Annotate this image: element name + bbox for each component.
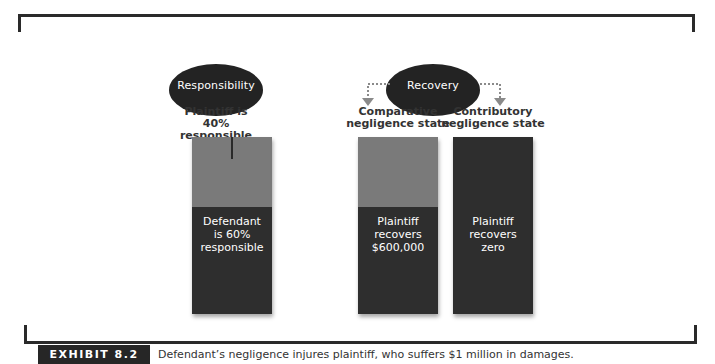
recovery-title: Recovery — [407, 79, 459, 92]
contributory-bar: Plaintiff recovers zero — [453, 137, 533, 314]
comparative-negligence-label: Comparative negligence state — [346, 106, 450, 130]
responsibility-bar: Defendant is 60% responsible — [192, 137, 272, 314]
comparative-recovery-text: Plaintiff recovers $600,000 — [358, 215, 438, 254]
responsibility-title: Responsibility — [177, 79, 255, 92]
comparative-bar: Plaintiff recovers $600,000 — [358, 137, 438, 314]
exhibit-caption: Defendant’s negligence injures plaintiff… — [158, 348, 574, 361]
defendant-share-text: Defendant is 60% responsible — [192, 215, 272, 254]
pointer-line — [231, 137, 233, 159]
contributory-recovery-text: Plaintiff recovers zero — [453, 215, 533, 254]
contributory-negligence-label: Contributory negligence state — [441, 106, 545, 130]
top-bracket — [18, 14, 695, 32]
exhibit-badge: EXHIBIT 8.2 — [38, 345, 150, 364]
bottom-bracket — [24, 325, 697, 344]
unrecovered-segment — [358, 137, 438, 207]
